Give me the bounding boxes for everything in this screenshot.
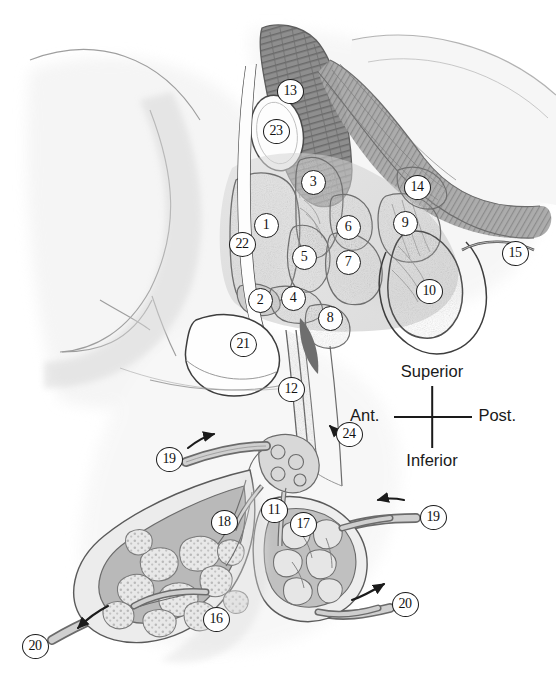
compass-horizontal-axis xyxy=(394,416,472,418)
callout-20[interactable]: 20 xyxy=(22,634,49,659)
callout-6[interactable]: 6 xyxy=(336,215,361,240)
callout-8[interactable]: 8 xyxy=(318,306,343,331)
callout-11[interactable]: 11 xyxy=(261,498,288,523)
callout-22[interactable]: 22 xyxy=(229,232,256,257)
callout-14[interactable]: 14 xyxy=(404,175,431,200)
callout-3[interactable]: 3 xyxy=(301,170,326,195)
callout-15[interactable]: 15 xyxy=(502,241,529,266)
callout-20[interactable]: 20 xyxy=(392,592,419,617)
callout-2[interactable]: 2 xyxy=(248,288,273,313)
callout-7[interactable]: 7 xyxy=(336,250,361,275)
anatomy-illustration xyxy=(0,0,556,680)
callout-9[interactable]: 9 xyxy=(393,211,418,236)
compass-label-posterior: Post. xyxy=(478,406,516,425)
callout-5[interactable]: 5 xyxy=(292,245,317,270)
callout-10[interactable]: 10 xyxy=(416,279,443,304)
callout-13[interactable]: 13 xyxy=(277,79,304,104)
callout-16[interactable]: 16 xyxy=(203,607,230,632)
callout-12[interactable]: 12 xyxy=(278,377,305,402)
callout-17[interactable]: 17 xyxy=(290,512,317,537)
anatomical-figure: 1234567891011121314151617181920212223241… xyxy=(0,0,556,680)
callout-1[interactable]: 1 xyxy=(254,213,279,238)
callout-21[interactable]: 21 xyxy=(230,332,257,357)
callout-23[interactable]: 23 xyxy=(263,119,290,144)
orientation-compass: Superior Inferior Ant. Post. xyxy=(352,362,512,470)
compass-label-inferior: Inferior xyxy=(406,451,457,470)
callout-19[interactable]: 19 xyxy=(420,505,447,530)
callout-18[interactable]: 18 xyxy=(211,510,238,535)
callout-4[interactable]: 4 xyxy=(281,286,306,311)
compass-label-anterior: Ant. xyxy=(350,406,379,425)
callout-19[interactable]: 19 xyxy=(156,447,183,472)
compass-label-superior: Superior xyxy=(401,362,463,381)
